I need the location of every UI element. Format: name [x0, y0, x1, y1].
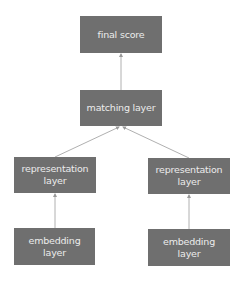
node-label: matching layer	[87, 102, 156, 114]
node-label: final score	[98, 29, 145, 41]
node-matching-layer: matching layer	[80, 90, 162, 126]
node-representation-left: representation layer	[14, 157, 96, 193]
node-label: embedding layer	[18, 235, 91, 259]
edge-rep-right-to-matching	[123, 127, 189, 158]
node-embedding-right: embedding layer	[148, 229, 230, 266]
edge-rep-left-to-matching	[55, 127, 119, 157]
node-label: representation layer	[18, 163, 92, 187]
node-label: representation layer	[152, 164, 226, 188]
node-embedding-left: embedding layer	[14, 228, 95, 265]
node-label: embedding layer	[152, 236, 226, 260]
node-representation-right: representation layer	[148, 158, 230, 194]
node-final-score: final score	[80, 16, 162, 53]
